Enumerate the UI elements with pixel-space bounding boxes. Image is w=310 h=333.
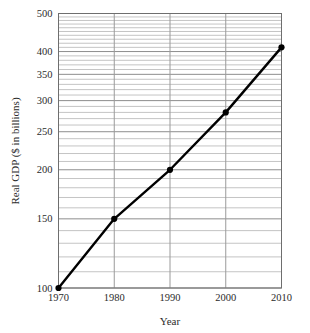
data-point-1980	[111, 216, 117, 222]
y-tick-label: 500	[37, 8, 53, 19]
x-axis-title: Year	[160, 315, 181, 327]
x-tick-label: 2000	[215, 292, 236, 303]
gdp-line-chart: 100150200250300350400500 197019801990200…	[0, 0, 310, 333]
data-point-2000	[223, 109, 229, 115]
x-tick-label: 2010	[271, 292, 292, 303]
y-tick-label: 200	[37, 164, 53, 175]
data-point-2010	[278, 44, 284, 50]
x-tick-label: 1970	[48, 292, 69, 303]
x-tick-label: 1990	[160, 292, 181, 303]
x-tick-label: 1980	[104, 292, 125, 303]
y-tick-label: 300	[37, 95, 53, 106]
y-tick-label: 400	[37, 46, 53, 57]
y-tick-label: 350	[37, 69, 53, 80]
data-point-1970	[55, 285, 61, 291]
y-tick-label: 250	[37, 126, 53, 137]
y-tick-label: 150	[37, 213, 53, 224]
chart-container: 100150200250300350400500 197019801990200…	[0, 0, 310, 333]
data-point-1990	[167, 167, 173, 173]
y-axis-title: Real GDP ($ in billions)	[9, 97, 22, 204]
